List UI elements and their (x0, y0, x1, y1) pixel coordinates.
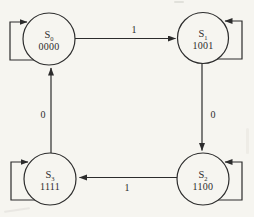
scan-artifact (174, 1, 184, 3)
state-diagram-svg: 1010S00000S11001S31111S21100 (0, 0, 254, 217)
state-code-s3: 1111 (40, 181, 60, 192)
transition-label-s1-s2: 0 (211, 109, 216, 120)
state-code-s0: 0000 (38, 41, 59, 52)
diagram-canvas: 1010S00000S11001S31111S21100 (0, 0, 254, 217)
state-code-s1: 1001 (192, 40, 213, 51)
transition-label-s0-s1: 1 (132, 24, 137, 35)
scan-artifact (246, 128, 249, 154)
transition-label-s3-s0: 0 (41, 109, 46, 120)
state-code-s2: 1100 (193, 181, 214, 192)
transition-label-s2-s3: 1 (125, 182, 130, 193)
